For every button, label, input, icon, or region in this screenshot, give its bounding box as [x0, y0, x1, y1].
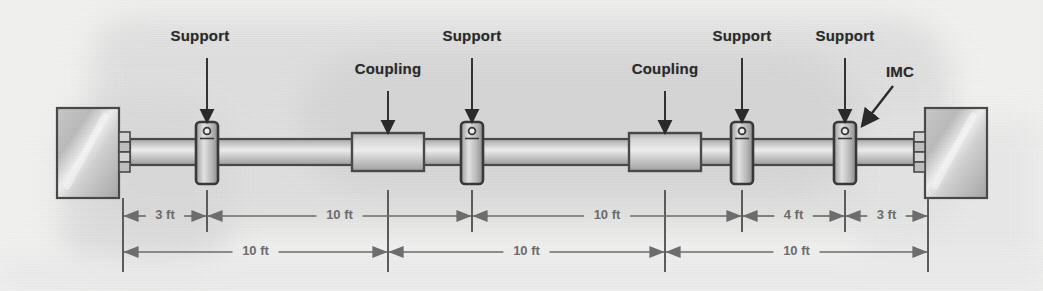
support-body-2-bolt-icon	[469, 128, 476, 135]
flange-right-segment	[914, 132, 925, 142]
support-body-3-bolt-icon	[739, 128, 746, 135]
flange-left-segment	[119, 142, 130, 152]
support-body-1-bolt-icon	[204, 128, 211, 135]
seg-3ft-left-label: 3 ft	[150, 207, 180, 222]
seg-span-2-label: 10 ft	[508, 243, 546, 258]
flange-right-segment	[914, 142, 925, 152]
seg-3ft-right-label: 3 ft	[871, 207, 901, 222]
coupling-body-2	[629, 133, 701, 171]
support-body-4-bolt-icon	[842, 128, 849, 135]
imc-leader-arrow	[862, 86, 893, 126]
callout-arrows	[207, 58, 893, 133]
support-2-label: Support	[443, 27, 502, 44]
seg-10ft-a-label: 10 ft	[321, 207, 359, 222]
coupling-body-1	[352, 133, 424, 171]
seg-span-3-label: 10 ft	[778, 243, 816, 258]
coupling-1-label: Coupling	[355, 60, 422, 77]
seg-4ft-label: 4 ft	[778, 207, 808, 222]
flange-left-segment	[119, 132, 130, 142]
seg-10ft-b-label: 10 ft	[588, 207, 626, 222]
flange-left-segment	[119, 162, 130, 172]
flange-left-segment	[119, 152, 130, 162]
imc-label: IMC	[886, 63, 914, 80]
support-4-label: Support	[816, 27, 875, 44]
flange-right-segment	[914, 152, 925, 162]
support-1-label: Support	[171, 27, 230, 44]
conduit-assembly	[130, 139, 914, 165]
flange-right-segment	[914, 162, 925, 172]
extension-lines	[123, 190, 928, 272]
imc-conduit	[130, 139, 914, 165]
support-3-label: Support	[713, 27, 772, 44]
figure-canvas: 3 ft10 ft10 ft4 ft3 ft10 ft10 ft10 ftSup…	[0, 0, 1043, 291]
seg-span-1-label: 10 ft	[237, 243, 275, 258]
coupling-2-label: Coupling	[632, 60, 699, 77]
